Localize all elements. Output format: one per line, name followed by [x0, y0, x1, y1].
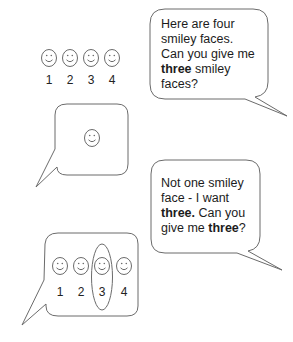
number-label: 1: [54, 285, 66, 299]
text-line: Here are four: [161, 17, 255, 32]
smiley-face-icon: [105, 50, 120, 67]
text-line: face - I want: [161, 191, 246, 206]
smiley-face-icon: [42, 50, 57, 67]
number-label: 2: [75, 285, 87, 299]
number-label: 4: [118, 285, 130, 299]
text-span: Can you: [195, 206, 245, 220]
bold-word: three: [161, 62, 192, 76]
text-line: three smiley: [161, 62, 255, 77]
text-span: ?: [239, 221, 246, 235]
speech-bubble-4: [22, 233, 138, 325]
number-label: 4: [106, 73, 118, 87]
text-line: Not one smiley: [161, 176, 246, 191]
text-line: Can you give me: [161, 47, 255, 62]
top-smiley-row: [42, 50, 120, 67]
number-label: 3: [85, 73, 97, 87]
bold-word: three.: [161, 206, 195, 220]
number-label: 2: [64, 73, 76, 87]
number-label: 3: [96, 285, 108, 299]
text-line: smiley faces.: [161, 32, 255, 47]
number-label: 1: [43, 73, 55, 87]
bold-word: three: [208, 221, 239, 235]
bubble-3-text: Not one smiley face - I want three. Can …: [161, 176, 246, 236]
text-span: give me: [161, 221, 208, 235]
text-line: give me three?: [161, 221, 246, 236]
text-line: three. Can you: [161, 206, 246, 221]
smiley-face-icon: [63, 50, 78, 67]
bubble-1-text: Here are four smiley faces. Can you give…: [161, 17, 255, 92]
text-span: smiley: [192, 62, 231, 76]
speech-bubble-2: [36, 104, 128, 187]
text-line: faces?: [161, 77, 255, 92]
smiley-face-icon: [84, 50, 99, 67]
